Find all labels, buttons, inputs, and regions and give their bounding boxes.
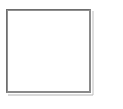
box-shadow-right-edge (92, 11, 94, 95)
box-shadow-bottom-edge (8, 94, 93, 96)
placeholder-box-content (7, 10, 89, 91)
page-canvas (0, 0, 123, 109)
empty-placeholder-box[interactable] (6, 9, 91, 93)
